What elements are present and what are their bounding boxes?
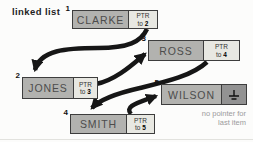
pointer-target: to 2: [138, 20, 149, 28]
node-clarke: 1 CLARKE PTR to 2: [72, 10, 158, 29]
node-wilson-null-cell: [221, 85, 246, 104]
node-ross-name: ROSS: [149, 41, 203, 60]
pointer-label: PTR: [137, 12, 150, 20]
node-smith-index: 4: [58, 108, 68, 117]
pointer-label: PTR: [134, 117, 147, 125]
pointer-label: PTR: [215, 43, 228, 51]
node-jones-name: JONES: [23, 78, 73, 98]
node-wilson-index: 5: [149, 78, 159, 87]
no-pointer-note: no pointer for last item: [202, 110, 246, 127]
node-jones: 2 JONES PTR to 3: [22, 77, 98, 99]
pointer-target: to 5: [135, 124, 146, 132]
node-clarke-pointer-cell: PTR to 2: [128, 11, 157, 28]
linked-list-diagram: linked list 1 CLARKE PTR to 2 2 JONES PT…: [0, 0, 253, 142]
node-smith: 4 SMITH PTR to 5: [70, 114, 155, 134]
no-pointer-note-line2: last item: [202, 119, 246, 128]
pointer-target: to 4: [216, 51, 227, 59]
ground-null-icon: [227, 88, 241, 102]
pointer-target: to 3: [80, 88, 91, 96]
node-smith-pointer-cell: PTR to 5: [126, 115, 154, 133]
arrow-smith-to-wilson: [129, 96, 156, 114]
node-wilson: 5 WILSON: [161, 84, 247, 105]
node-jones-index: 2: [10, 71, 20, 80]
node-ross-pointer-cell: PTR to 4: [203, 41, 239, 60]
node-wilson-name: WILSON: [162, 85, 221, 104]
node-clarke-name: CLARKE: [73, 11, 128, 28]
arrow-jones-to-ross: [96, 54, 145, 84]
node-smith-name: SMITH: [71, 115, 126, 133]
node-clarke-index: 1: [60, 4, 70, 13]
node-ross: 3 ROSS PTR to 4: [148, 40, 240, 61]
node-ross-index: 3: [136, 34, 146, 43]
pointer-label: PTR: [79, 81, 92, 89]
node-jones-pointer-cell: PTR to 3: [73, 78, 97, 98]
